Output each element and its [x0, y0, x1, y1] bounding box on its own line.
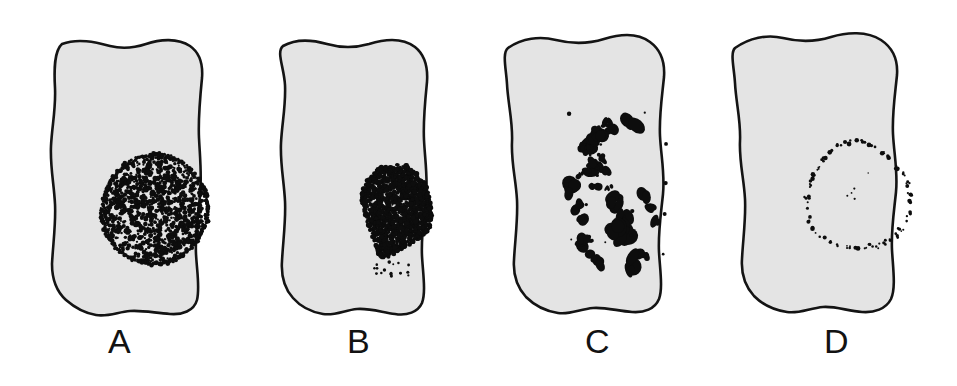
cell-panel-a: A: [0, 0, 239, 386]
panel-label-d: D: [717, 322, 956, 360]
cell-panel-c: C: [478, 0, 717, 386]
cell-panel-b: B: [239, 0, 478, 386]
figure-root: A B C D: [0, 0, 957, 386]
panel-label-b: B: [239, 322, 478, 360]
cell-membrane-outline: [733, 33, 898, 312]
panel-label-c: C: [478, 322, 717, 360]
cell-panel-d: D: [717, 0, 956, 386]
panel-label-a: A: [0, 322, 239, 360]
